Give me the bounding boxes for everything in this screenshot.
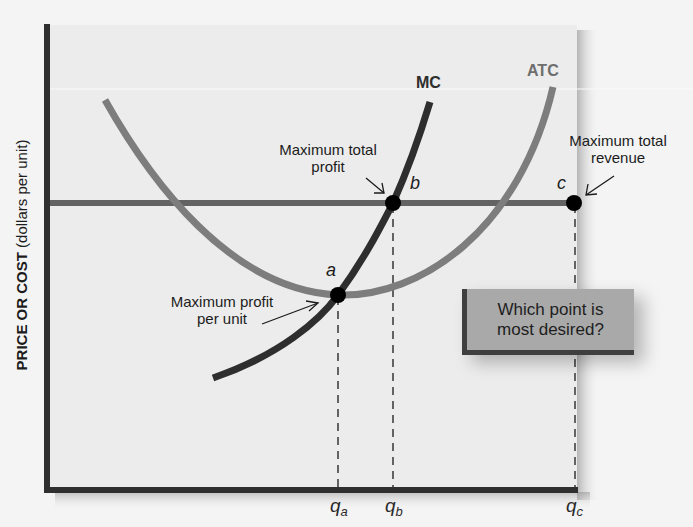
y-axis-label: PRICE OR COST (dollars per unit) — [13, 140, 30, 371]
callout-line1: Which point is — [497, 300, 604, 320]
annotation-b-line1: Maximum total — [268, 141, 388, 158]
panel-shadow-bottom — [55, 492, 590, 510]
question-callout: Which point is most desired? — [462, 289, 634, 355]
annotation-a-line1: Maximum profit — [157, 293, 287, 310]
plot-panel — [47, 25, 577, 490]
mc-label: MC — [416, 74, 441, 91]
panel-shadow-right — [577, 30, 599, 500]
annotation-point-b: Maximum total profit — [268, 141, 388, 175]
x-tick-qb: qb — [385, 497, 403, 520]
point-c-label: c — [557, 175, 566, 192]
point-c-marker — [566, 195, 582, 211]
chart-canvas — [0, 0, 693, 527]
annotation-point-c: Maximum total revenue — [558, 132, 678, 166]
chart-figure: MC ATC a b c Maximum profit per unit Max… — [0, 0, 693, 527]
annotation-a-line2: per unit — [157, 310, 287, 327]
x-tick-qa: qa — [330, 497, 348, 520]
point-b-label: b — [410, 175, 420, 192]
point-a-label: a — [326, 262, 336, 279]
annotation-c-line2: revenue — [558, 149, 678, 166]
callout-line2: most desired? — [497, 320, 604, 340]
point-a-marker — [330, 287, 346, 303]
annotation-point-a: Maximum profit per unit — [157, 293, 287, 327]
atc-label: ATC — [527, 62, 559, 79]
point-b-marker — [385, 195, 401, 211]
annotation-c-line1: Maximum total — [558, 132, 678, 149]
annotation-b-line2: profit — [268, 158, 388, 175]
x-tick-qc: qc — [566, 497, 583, 520]
